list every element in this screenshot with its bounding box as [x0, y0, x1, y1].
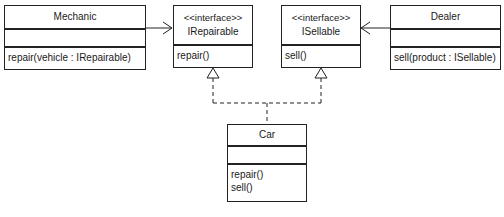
operation: repair(vehicle : IRepairable) — [8, 51, 142, 64]
car-realizes-irepairable — [207, 68, 219, 103]
class-name: IRepairable — [174, 25, 252, 39]
stereotype-label: <<interface>> — [282, 11, 360, 25]
mechanic-to-irepairable-arrow — [145, 22, 172, 34]
class-header: <<interface>> ISellable — [282, 6, 360, 46]
class-header: Mechanic — [5, 6, 145, 30]
car-realizes-isellable — [315, 68, 327, 103]
class-mechanic[interactable]: Mechanic repair(vehicle : IRepairable) — [4, 5, 146, 70]
realization-junction — [213, 103, 321, 124]
class-header: Car — [228, 125, 306, 147]
operation: sell() — [231, 181, 303, 194]
operations-compartment: repair() — [174, 46, 252, 62]
operation: repair() — [231, 168, 303, 181]
operation: sell() — [285, 49, 357, 62]
class-dealer[interactable]: Dealer sell(product : ISellable) — [390, 5, 501, 70]
stereotype-label: <<interface>> — [174, 11, 252, 25]
class-name: Dealer — [391, 10, 500, 24]
class-name: Car — [228, 128, 306, 142]
class-header: <<interface>> IRepairable — [174, 6, 252, 46]
operation: sell(product : ISellable) — [394, 51, 497, 64]
dealer-to-isellable-arrow — [361, 22, 390, 34]
class-car[interactable]: Car repair() sell() — [227, 124, 307, 202]
interface-isellable[interactable]: <<interface>> ISellable sell() — [281, 5, 361, 68]
attributes-compartment — [228, 147, 306, 165]
operations-compartment: repair() sell() — [228, 165, 306, 194]
uml-class-diagram: Mechanic repair(vehicle : IRepairable) <… — [0, 0, 504, 217]
interface-irepairable[interactable]: <<interface>> IRepairable repair() — [173, 5, 253, 68]
operations-compartment: sell(product : ISellable) — [391, 48, 500, 64]
operations-compartment: sell() — [282, 46, 360, 62]
operations-compartment: repair(vehicle : IRepairable) — [5, 48, 145, 64]
attributes-compartment — [5, 30, 145, 48]
class-name: ISellable — [282, 25, 360, 39]
attributes-compartment — [391, 30, 500, 48]
class-name: Mechanic — [5, 10, 145, 24]
class-header: Dealer — [391, 6, 500, 30]
operation: repair() — [177, 49, 249, 62]
